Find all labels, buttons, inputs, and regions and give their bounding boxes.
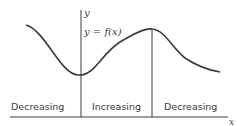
region-label-decreasing-left: Decreasing (11, 101, 64, 112)
region-label-decreasing-right: Decreasing (164, 101, 217, 112)
function-curve (26, 25, 220, 75)
curve-label: y = f(x) (84, 26, 122, 37)
x-axis-label: x (229, 117, 234, 126)
region-label-increasing: Increasing (92, 101, 141, 112)
y-axis-label: y (84, 7, 90, 18)
